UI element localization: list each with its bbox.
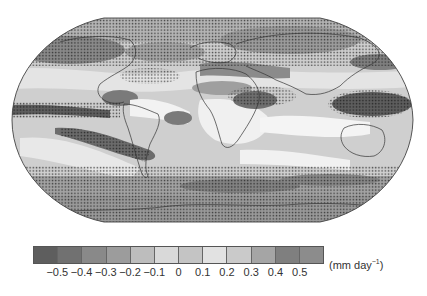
- colorbar-box: [252, 247, 276, 263]
- colorbar-box: [82, 247, 106, 263]
- units-close: ): [380, 259, 384, 271]
- colorbar-tick-label: −0.2: [119, 266, 141, 278]
- stipple-indian: [228, 86, 296, 106]
- units-text: (mm day: [329, 259, 372, 271]
- colorbar-box: [34, 247, 58, 263]
- colorbar-tick-label: −0.1: [143, 266, 165, 278]
- colorbar-box: [203, 247, 227, 263]
- colorbar-box: [227, 247, 251, 263]
- colorbar-ticks: −0.5−0.4−0.3−0.2−0.100.10.20.30.40.5: [33, 266, 324, 280]
- colorbar-tick-label: 0.1: [195, 266, 210, 278]
- colorbar-tick-label: 0: [175, 266, 181, 278]
- stipple-eq-pacific: [0, 102, 120, 118]
- colorbar-tick-label: 0.5: [292, 266, 307, 278]
- stipple-maritime: [328, 90, 412, 118]
- colorbar-tick-label: 0.3: [244, 266, 259, 278]
- colorbar-tick-label: −0.5: [46, 266, 68, 278]
- colorbar-tick-label: −0.4: [71, 266, 93, 278]
- colorbar-tick-label: 0.2: [219, 266, 234, 278]
- colorbar-units-label: (mm day−1): [329, 258, 383, 271]
- colorbar-box: [131, 247, 155, 263]
- world-map: [0, 0, 427, 232]
- colorbar: [33, 246, 324, 264]
- stipple-n-atlantic: [120, 68, 180, 84]
- units-exponent: −1: [372, 258, 380, 265]
- colorbar-tick-label: −0.3: [95, 266, 117, 278]
- colorbar-box: [58, 247, 82, 263]
- colorbar-box: [155, 247, 179, 263]
- colorbar-box: [276, 247, 300, 263]
- amazon-dark: [164, 111, 192, 125]
- stipple-south: [0, 166, 427, 226]
- colorbar-box: [300, 247, 323, 263]
- colorbar-tick-label: 0.4: [268, 266, 283, 278]
- colorbar-box: [179, 247, 203, 263]
- colorbar-box: [107, 247, 131, 263]
